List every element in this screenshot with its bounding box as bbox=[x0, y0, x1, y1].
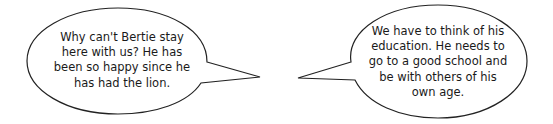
left-bubble-line: Why can't Bertie stay bbox=[52, 30, 192, 45]
left-bubble-line: been so happy since he bbox=[52, 60, 192, 75]
right-bubble-text: We have to think of his education. He ne… bbox=[365, 24, 511, 100]
right-bubble-line: education. He needs to bbox=[365, 39, 511, 54]
right-bubble-line: We have to think of his bbox=[365, 24, 511, 39]
left-bubble-line: has had the lion. bbox=[52, 76, 192, 91]
left-bubble-text: Why can't Bertie stay here with us? He h… bbox=[52, 30, 192, 91]
right-bubble-line: go to a good school and bbox=[365, 54, 511, 69]
right-bubble-line: own age. bbox=[365, 85, 511, 100]
speech-bubbles-illustration: Why can't Bertie stay here with us? He h… bbox=[0, 0, 553, 124]
right-bubble-line: be with others of his bbox=[365, 70, 511, 85]
left-bubble-line: here with us? He has bbox=[52, 45, 192, 60]
